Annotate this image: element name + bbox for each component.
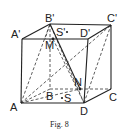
label-s: S <box>64 92 71 104</box>
cube-diagram: A' B' C' D' S' M N A B S C D Fig. 8 <box>0 0 123 136</box>
label-s-prime: S' <box>56 26 65 38</box>
label-d-prime: D' <box>80 27 90 39</box>
figure-caption: Fig. 8 <box>50 120 69 129</box>
label-a: A <box>10 101 18 113</box>
edge-aprime-a <box>21 39 22 103</box>
edge-aprime-bprime <box>22 24 50 39</box>
label-b: B <box>46 90 53 102</box>
edge-bprime-cprime <box>50 24 111 25</box>
edge-cprime-dprime <box>88 25 111 39</box>
label-c-prime: C' <box>107 12 117 24</box>
label-c: C <box>109 91 117 103</box>
label-d: D <box>80 105 88 117</box>
point-s <box>61 97 63 99</box>
label-b-prime: B' <box>45 12 54 24</box>
label-a-prime: A' <box>11 28 20 40</box>
point-s-prime <box>66 31 68 33</box>
label-n: N <box>74 76 82 88</box>
label-m: M <box>45 39 54 51</box>
vertex-labels: A' B' C' D' S' M N A B S C D <box>10 12 117 117</box>
point-n <box>79 88 82 91</box>
